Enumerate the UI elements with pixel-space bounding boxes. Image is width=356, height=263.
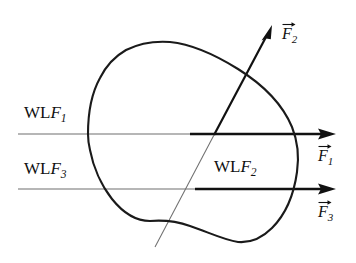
label-wl-f3-prefix: WL xyxy=(24,159,50,178)
svg-text:WLF2: WLF2 xyxy=(214,157,257,178)
figure-canvas: WLF1 WLF3 WLF2 F1 F3 xyxy=(0,0,356,263)
label-wl-f1-symbol: F xyxy=(49,103,61,122)
label-wl-f1-prefix: WL xyxy=(24,103,50,122)
svg-text:WLF3: WLF3 xyxy=(24,159,67,180)
label-wl-f3: WLF3 xyxy=(24,159,67,180)
svg-text:WLF1: WLF1 xyxy=(24,103,67,124)
label-vector-f3-subscript: 3 xyxy=(327,211,334,223)
label-vector-f2-subscript: 2 xyxy=(292,33,298,45)
label-wl-f2-symbol: F xyxy=(239,157,251,176)
label-wl-f2-prefix: WL xyxy=(214,157,240,176)
label-wl-f3-subscript: 3 xyxy=(60,168,67,180)
label-wl-f2-subscript: 2 xyxy=(251,166,257,178)
label-vector-f2-symbol: F xyxy=(281,25,292,42)
label-vector-f1-symbol: F xyxy=(317,147,328,164)
label-wl-f1-subscript: 1 xyxy=(61,112,67,124)
label-vector-f3-symbol: F xyxy=(317,203,328,220)
force-diagram-svg: WLF1 WLF3 WLF2 F1 F3 xyxy=(0,0,356,263)
label-wl-f1: WLF1 xyxy=(24,103,67,124)
label-vector-f1-subscript: 1 xyxy=(328,155,334,167)
label-wl-f2: WLF2 xyxy=(214,157,257,178)
label-wl-f3-symbol: F xyxy=(49,159,61,178)
